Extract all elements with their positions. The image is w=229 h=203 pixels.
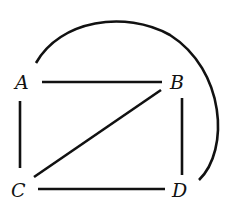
graph-diagram: A B C D — [0, 0, 229, 203]
edge-b-c — [34, 90, 161, 177]
node-label-d: D — [171, 179, 187, 201]
node-label-b: B — [169, 71, 184, 93]
node-label-a: A — [13, 71, 29, 93]
node-label-c: C — [11, 179, 26, 201]
